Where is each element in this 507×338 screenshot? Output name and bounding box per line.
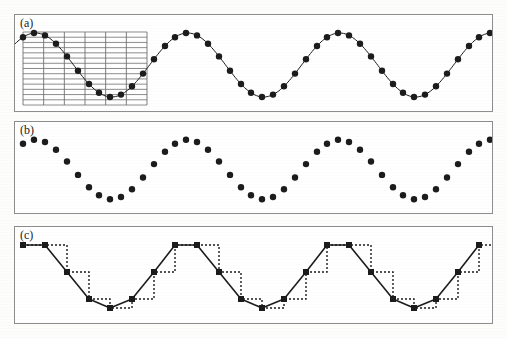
sample-point bbox=[216, 53, 222, 59]
sample-point bbox=[476, 34, 482, 40]
sample-point bbox=[75, 172, 81, 178]
sample-point bbox=[455, 56, 461, 62]
sample-point bbox=[444, 70, 450, 76]
quantized-point bbox=[259, 305, 265, 311]
quantized-point bbox=[455, 269, 461, 275]
quantized-point bbox=[172, 242, 178, 248]
sample-point bbox=[75, 68, 81, 74]
sample-point bbox=[31, 137, 37, 143]
sample-point bbox=[183, 30, 189, 36]
sample-and-hold-staircase bbox=[23, 245, 493, 308]
sample-point bbox=[86, 81, 92, 87]
sample-point bbox=[162, 43, 168, 49]
sample-point bbox=[31, 30, 37, 36]
quantized-point bbox=[411, 305, 417, 311]
sample-point bbox=[379, 68, 385, 74]
sample-point bbox=[107, 196, 113, 202]
sample-point bbox=[476, 140, 482, 146]
sample-point bbox=[248, 192, 254, 198]
quantized-point bbox=[107, 305, 113, 311]
sample-point bbox=[314, 149, 320, 155]
quantized-point bbox=[281, 296, 287, 302]
sample-point bbox=[444, 174, 450, 180]
sample-point bbox=[227, 172, 233, 178]
sample-point bbox=[379, 172, 385, 178]
sample-point bbox=[455, 161, 461, 167]
sample-point bbox=[314, 43, 320, 49]
quantized-point bbox=[303, 269, 309, 275]
quantized-point bbox=[476, 242, 482, 248]
sample-point bbox=[411, 196, 417, 202]
quantized-point bbox=[151, 269, 157, 275]
quantized-point bbox=[216, 269, 222, 275]
sample-point bbox=[53, 147, 59, 153]
sample-point bbox=[42, 139, 48, 145]
sample-point bbox=[390, 184, 396, 190]
sample-point bbox=[281, 186, 287, 192]
discrete-sample-group bbox=[20, 137, 493, 203]
sample-point bbox=[303, 56, 309, 62]
quantized-point bbox=[42, 242, 48, 248]
sample-point bbox=[129, 186, 135, 192]
sample-point bbox=[42, 32, 48, 38]
sample-point bbox=[172, 34, 178, 40]
sample-point bbox=[335, 30, 341, 36]
sample-point bbox=[303, 161, 309, 167]
quantized-point bbox=[433, 296, 439, 302]
sampling-grid bbox=[23, 32, 147, 105]
sample-point bbox=[466, 149, 472, 155]
sample-point bbox=[64, 53, 70, 59]
sample-point bbox=[238, 184, 244, 190]
quantized-point bbox=[64, 269, 70, 275]
quantized-point bbox=[238, 296, 244, 302]
quantized-point bbox=[194, 242, 200, 248]
sample-point bbox=[281, 83, 287, 89]
panel-a-plot bbox=[15, 15, 493, 112]
sample-point bbox=[118, 91, 124, 97]
sample-point bbox=[324, 34, 330, 40]
panel-b-plot bbox=[15, 122, 493, 214]
sample-point bbox=[466, 43, 472, 49]
sample-point bbox=[487, 30, 493, 36]
sample-point bbox=[216, 158, 222, 164]
sample-point bbox=[140, 174, 146, 180]
quantized-point bbox=[390, 296, 396, 302]
sample-point bbox=[357, 41, 363, 47]
quantized-point bbox=[20, 242, 26, 248]
sample-point bbox=[238, 81, 244, 87]
sample-point bbox=[194, 139, 200, 145]
quantized-point bbox=[129, 296, 135, 302]
sample-point bbox=[422, 194, 428, 200]
sample-point bbox=[183, 137, 189, 143]
panel-b: (b) bbox=[14, 121, 493, 214]
panel-c-plot bbox=[15, 227, 493, 324]
sample-point bbox=[346, 32, 352, 38]
sample-point bbox=[433, 186, 439, 192]
sample-point bbox=[64, 158, 70, 164]
sample-point bbox=[151, 161, 157, 167]
quantized-point bbox=[324, 242, 330, 248]
sample-point bbox=[259, 94, 265, 100]
sample-point bbox=[129, 83, 135, 89]
sample-point bbox=[346, 139, 352, 145]
sample-point bbox=[400, 90, 406, 96]
sample-point bbox=[422, 91, 428, 97]
quantized-point bbox=[86, 296, 92, 302]
sample-point bbox=[259, 196, 265, 202]
sample-point bbox=[205, 41, 211, 47]
sample-point bbox=[53, 41, 59, 47]
sample-point bbox=[411, 94, 417, 100]
quantized-point bbox=[346, 242, 352, 248]
panel-c: (c) bbox=[14, 226, 493, 324]
sample-point bbox=[292, 174, 298, 180]
sample-point bbox=[248, 90, 254, 96]
sample-point bbox=[368, 158, 374, 164]
sample-point bbox=[390, 81, 396, 87]
figure-root: (a) (b) (c) bbox=[0, 0, 507, 338]
sample-point bbox=[20, 140, 26, 146]
quantized-point bbox=[368, 269, 374, 275]
sample-point bbox=[172, 140, 178, 146]
sample-point bbox=[335, 137, 341, 143]
sample-point bbox=[227, 68, 233, 74]
sample-point bbox=[433, 83, 439, 89]
